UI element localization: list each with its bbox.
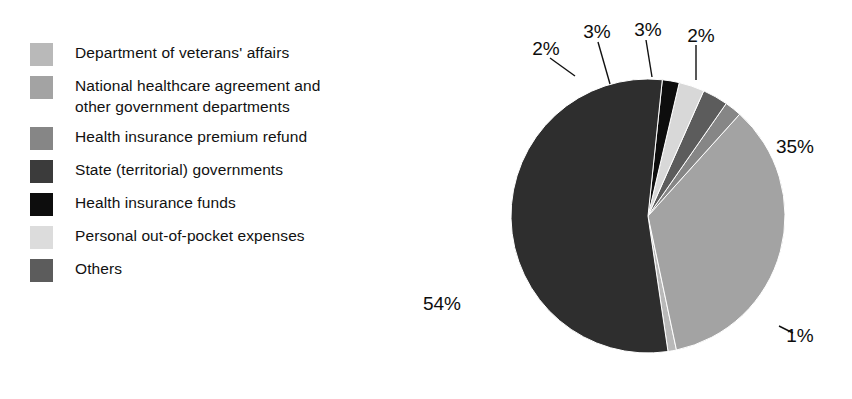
legend-item-label: Health insurance funds: [75, 192, 236, 213]
slice-percent-label: 1%: [786, 325, 814, 346]
slice-percent-label: 2%: [687, 25, 715, 46]
legend-item[interactable]: State (territorial) governments: [30, 159, 450, 183]
slice-percent-label: 3%: [634, 19, 662, 40]
slice-leader-line: [779, 326, 793, 333]
legend-swatch-icon: [30, 43, 53, 66]
pie-chart-figure: Department of veterans' affairsNational …: [0, 0, 852, 399]
slice-leader-line: [598, 42, 610, 84]
slice-percent-label: 3%: [583, 21, 611, 42]
legend-swatch-icon: [30, 226, 53, 249]
pie-slice[interactable]: [648, 80, 679, 216]
legend-item-label: State (territorial) governments: [75, 159, 283, 180]
pie-slice[interactable]: [648, 104, 740, 217]
slice-leader-line: [550, 58, 575, 76]
legend-swatch-icon: [30, 127, 53, 150]
legend-item[interactable]: Department of veterans' affairs: [30, 42, 450, 66]
legend-item[interactable]: Others: [30, 258, 450, 282]
pie-slice[interactable]: [648, 216, 676, 352]
pie-slice[interactable]: [648, 91, 726, 216]
legend-item-label: National healthcare agreement and other …: [75, 75, 320, 117]
legend-item-label: Personal out-of-pocket expenses: [75, 225, 305, 246]
legend-item[interactable]: Health insurance premium refund: [30, 126, 450, 150]
pie-slice[interactable]: [511, 79, 668, 353]
pie-slice[interactable]: [648, 114, 785, 350]
legend-swatch-icon: [30, 76, 53, 99]
slice-leader-line: [646, 40, 652, 77]
legend-item[interactable]: Personal out-of-pocket expenses: [30, 225, 450, 249]
legend-swatch-icon: [30, 193, 53, 216]
pie-slice[interactable]: [648, 83, 704, 216]
legend-item-label: Health insurance premium refund: [75, 126, 307, 147]
slice-percent-label: 35%: [776, 136, 814, 157]
chart-legend: Department of veterans' affairsNational …: [30, 42, 450, 291]
slice-percent-label: 2%: [532, 38, 560, 59]
legend-item[interactable]: Health insurance funds: [30, 192, 450, 216]
legend-swatch-icon: [30, 259, 53, 282]
slice-percent-label: 54%: [423, 293, 461, 314]
legend-item-label: Others: [75, 258, 122, 279]
legend-item-label: Department of veterans' affairs: [75, 42, 289, 63]
legend-item[interactable]: National healthcare agreement and other …: [30, 75, 450, 117]
legend-swatch-icon: [30, 160, 53, 183]
